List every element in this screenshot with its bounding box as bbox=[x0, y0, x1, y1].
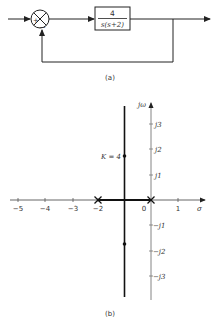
imaginary-axis-label: jω bbox=[136, 101, 146, 109]
figure: + − 4 s(s+2) (a) jω σ −5 −4 −3 −2 0 1 bbox=[0, 0, 221, 331]
x-tick-label: −4 bbox=[40, 205, 51, 213]
y-tick-label: −j1 bbox=[153, 222, 166, 230]
x-tick-label: −3 bbox=[68, 205, 78, 213]
real-axis-label: σ bbox=[197, 205, 202, 213]
y-tick-label: j2 bbox=[153, 146, 162, 154]
x-tick-label: −2 bbox=[93, 205, 103, 213]
x-tick-label: −5 bbox=[13, 205, 23, 213]
y-tick-label: j1 bbox=[153, 172, 162, 180]
x-tick-label: 1 bbox=[176, 205, 180, 213]
tf-denominator: s(s+2) bbox=[101, 21, 124, 29]
y-tick-label: −j3 bbox=[153, 273, 166, 281]
caption-b: (b) bbox=[105, 310, 115, 318]
closed-loop-pole-lower bbox=[123, 242, 127, 246]
tf-numerator: 4 bbox=[110, 9, 115, 18]
root-locus-plot: jω σ −5 −4 −3 −2 0 1 j3 j2 j1 −j1 bbox=[10, 101, 205, 318]
block-diagram: + − 4 s(s+2) (a) bbox=[8, 7, 210, 82]
y-tick-label: −j2 bbox=[153, 248, 166, 256]
closed-loop-pole-upper bbox=[123, 154, 127, 158]
y-tick-label: j3 bbox=[153, 121, 162, 129]
gain-annotation: K = 4 bbox=[100, 153, 121, 161]
caption-a: (a) bbox=[105, 74, 115, 82]
origin-label: 0 bbox=[142, 205, 146, 213]
